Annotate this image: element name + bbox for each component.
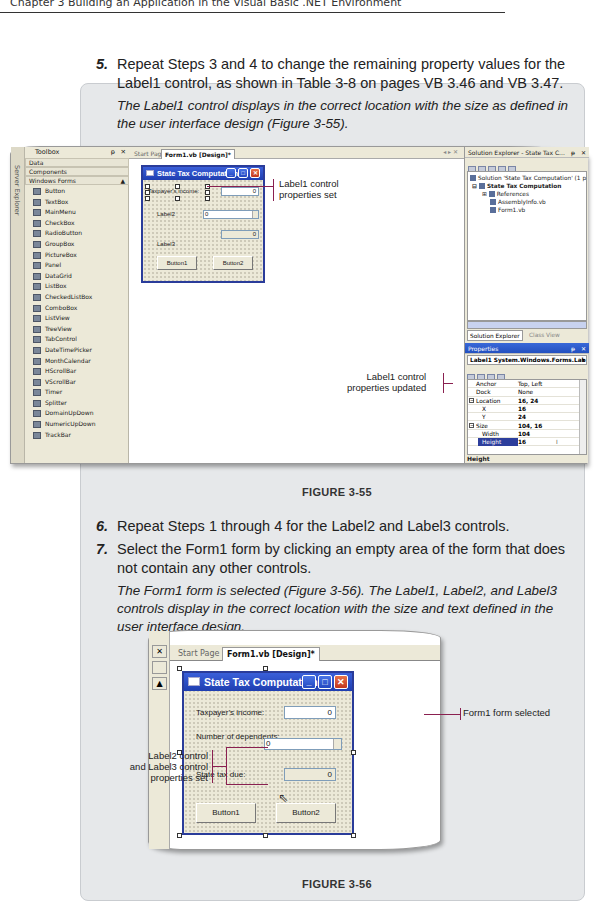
dependents-updown[interactable]: 0	[264, 738, 342, 750]
resize-handle[interactable]	[177, 833, 182, 838]
toolbox-item[interactable]: Panel	[25, 260, 129, 271]
pin-icon[interactable]: ᵽ	[111, 147, 115, 158]
chevron-down-icon[interactable]: ▾	[582, 356, 585, 364]
dependents-updown[interactable]: 0	[203, 210, 259, 219]
property-row[interactable]: −Location16, 24	[468, 397, 580, 405]
pin-icon[interactable]: ᵽ	[571, 343, 575, 354]
item-label: TabControl	[45, 335, 77, 342]
income-textbox[interactable]: 0	[221, 187, 259, 196]
toolbox-item[interactable]: TreeView	[25, 324, 129, 335]
pin-icon[interactable]: ᵽ	[571, 147, 575, 158]
toolbox-category-components[interactable]: Components	[25, 167, 129, 176]
toolbox-item[interactable]: MainMenu	[25, 207, 129, 218]
toolbox-item[interactable]: DomainUpDown	[25, 408, 129, 419]
figure-3-55-screenshot: Server Explorer Toolbox ᵽ ✕ Data Compone…	[10, 146, 587, 464]
form1-window[interactable]: State Tax Computation _ □ ✕ Taxpayer's i…	[141, 165, 265, 283]
tab-navigation-icons[interactable]: ◂ ▸ ✕	[443, 148, 458, 155]
minimize-icon[interactable]: _	[226, 168, 236, 178]
toolbox-item[interactable]: Timer	[25, 387, 129, 398]
vertical-scrollbar[interactable]	[579, 380, 586, 454]
toolbox-category[interactable]	[152, 661, 167, 674]
button2[interactable]: Button2	[276, 803, 336, 823]
property-row[interactable]: X16	[468, 405, 580, 413]
resize-handle[interactable]	[351, 833, 356, 838]
resize-handle[interactable]	[205, 190, 210, 195]
toolbox-item[interactable]: ListView	[25, 313, 129, 324]
tab-class-view[interactable]: Class View	[527, 330, 562, 341]
collapse-icon[interactable]: −	[469, 398, 474, 403]
text-cursor-icon: I	[556, 438, 558, 446]
toolbox-item[interactable]: HScrollBar	[25, 366, 129, 377]
tree-node-project[interactable]: ⊟ State Tax Computation	[472, 183, 561, 189]
property-name: Y	[482, 413, 522, 421]
toolbox-item[interactable]: CheckBox	[25, 218, 129, 229]
label1[interactable]: Taxpayer's income:	[148, 188, 199, 194]
scroll-up-icon[interactable]: ▲	[152, 677, 167, 690]
collapse-icon[interactable]: −	[469, 423, 474, 428]
resize-handle[interactable]	[205, 196, 210, 201]
resize-handle[interactable]	[263, 833, 268, 838]
toolbox-item[interactable]: MonthCalendar	[25, 356, 129, 367]
property-row[interactable]: Width104	[468, 430, 580, 438]
toolbox-item[interactable]: TextBox	[25, 197, 129, 208]
toolbox-item[interactable]: TrackBar	[25, 430, 129, 441]
property-row[interactable]: AnchorTop, Left	[468, 380, 580, 388]
label3[interactable]: Label3	[157, 241, 175, 247]
server-explorer-tab[interactable]: Server Explorer	[11, 147, 25, 463]
spinner-icon[interactable]	[333, 739, 341, 749]
close-icon[interactable]: ✕	[334, 675, 348, 689]
resize-handle[interactable]	[175, 196, 180, 201]
button1[interactable]: Button1	[157, 256, 197, 270]
toolbox-edge: ✕ ▲	[149, 631, 170, 849]
maximize-icon[interactable]: □	[238, 168, 248, 178]
tab-start-page[interactable]: Start Page	[174, 647, 223, 661]
income-textbox[interactable]: 0	[284, 706, 336, 719]
close-icon[interactable]: ✕	[581, 343, 586, 354]
toolbox-category-windows-forms[interactable]: Windows Forms▲	[25, 176, 129, 185]
close-icon[interactable]: ✕	[581, 147, 586, 158]
toolbox-item[interactable]: DateTimePicker	[25, 345, 129, 356]
item-label: DomainUpDown	[45, 409, 93, 416]
scroll-up-icon[interactable]: ▲	[120, 177, 125, 185]
close-icon[interactable]: ✕	[121, 147, 126, 158]
toolbox-item[interactable]: VScrollBar	[25, 377, 129, 388]
toolbox-category-data[interactable]: Data	[25, 158, 129, 167]
tree-node-references[interactable]: ⊞ References	[482, 191, 529, 197]
maximize-icon[interactable]: □	[318, 675, 332, 689]
toolbox-item[interactable]: Button	[25, 186, 129, 197]
button1[interactable]: Button1	[196, 803, 256, 823]
tree-node-solution[interactable]: Solution 'State Tax Computation' (1 p	[470, 175, 586, 181]
property-row[interactable]: Y24	[468, 413, 580, 421]
spinner-icon[interactable]	[252, 211, 258, 218]
toolbox-item[interactable]: RadioButton	[25, 228, 129, 239]
label2[interactable]: Label2	[157, 211, 175, 217]
toolbox-item[interactable]: ComboBox	[25, 303, 129, 314]
toolbox-item[interactable]: CheckedListBox	[25, 292, 129, 303]
toolbox-item[interactable]: ListBox	[25, 281, 129, 292]
tab-solution-explorer[interactable]: Solution Explorer	[467, 330, 523, 341]
horizontal-scrollbar[interactable]	[467, 321, 587, 329]
property-row[interactable]: −Size104, 16	[468, 422, 580, 430]
tab-form1-design[interactable]: Form1.vb [Design]*	[161, 149, 235, 159]
checkedlistbox-control-icon	[33, 294, 41, 301]
minimize-icon[interactable]: _	[302, 675, 316, 689]
toolbox-item[interactable]: NumericUpDown	[25, 419, 129, 430]
tree-node-form1[interactable]: Form1.vb	[490, 207, 525, 213]
resize-handle[interactable]	[351, 750, 356, 755]
resize-handle[interactable]	[145, 196, 150, 201]
toolbox-item[interactable]: GroupBox	[25, 239, 129, 250]
close-icon[interactable]: ✕	[152, 645, 167, 658]
toolbox-item[interactable]: PictureBox	[25, 250, 129, 261]
callout-line	[424, 714, 460, 715]
close-icon[interactable]: ✕	[250, 168, 260, 178]
toolbox-item[interactable]: DataGrid	[25, 271, 129, 282]
tab-form1-design[interactable]: Form1.vb [Design]*	[222, 647, 320, 661]
button2[interactable]: Button2	[213, 256, 253, 270]
toolbox-item[interactable]: Splitter	[25, 398, 129, 409]
property-row[interactable]: DockNone	[468, 388, 580, 396]
tree-node-assemblyinfo[interactable]: AssemblyInfo.vb	[490, 199, 546, 205]
property-row-selected[interactable]: Height16I	[468, 438, 580, 446]
label1[interactable]: Taxpayer's income:	[196, 708, 264, 717]
toolbox-item[interactable]: TabControl	[25, 334, 129, 345]
object-selector[interactable]: Label1 System.Windows.Forms.Lab▾	[467, 355, 587, 365]
